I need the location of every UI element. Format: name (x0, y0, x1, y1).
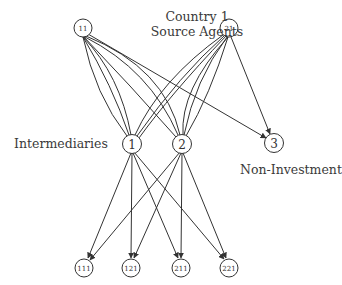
edge-21-to-3 (231, 37, 270, 134)
svg-text:221: 221 (222, 265, 235, 273)
edges-1-to-destinations (88, 152, 224, 259)
node-211: 211 (172, 259, 190, 277)
node-1: 1 (123, 135, 142, 154)
svg-text:111: 111 (77, 265, 90, 273)
svg-text:11: 11 (79, 25, 88, 33)
svg-text:211: 211 (174, 265, 187, 273)
node-221: 221 (220, 259, 238, 277)
svg-text:121: 121 (124, 265, 137, 273)
edges-2-to-destinations (90, 152, 226, 260)
edges-21-to-2 (183, 37, 228, 136)
node-3: 3 (265, 134, 284, 153)
intermediaries-label: Intermediaries (14, 136, 108, 151)
non-investment-label: Non-Investment (240, 162, 342, 177)
svg-text:3: 3 (270, 137, 278, 151)
node-111: 111 (75, 259, 93, 277)
svg-text:1: 1 (128, 138, 136, 152)
node-121: 121 (122, 259, 140, 277)
svg-text:2: 2 (178, 138, 186, 152)
node-11: 11 (74, 19, 92, 37)
source-agents-title: Country 1 Source Agents (142, 9, 252, 39)
title-line-1: Country 1 (142, 9, 252, 24)
title-line-2: Source Agents (142, 24, 252, 39)
node-2: 2 (173, 135, 192, 154)
edges-11-to-1 (83, 37, 131, 136)
